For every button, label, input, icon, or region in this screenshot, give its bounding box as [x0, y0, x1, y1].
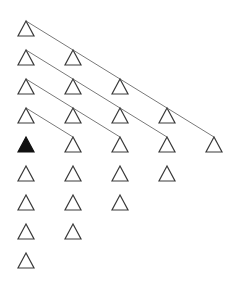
triangle-icon: [18, 195, 34, 210]
triangle-icon: [18, 224, 34, 239]
triangle-icon: [65, 224, 81, 239]
diagram-canvas: [0, 0, 237, 288]
triangle-icon: [65, 108, 81, 123]
triangle-icon: [65, 50, 81, 65]
connector-line: [26, 50, 167, 137]
triangle-icon: [112, 195, 128, 210]
triangle-icon: [65, 166, 81, 181]
triangle-icon: [18, 21, 34, 36]
triangle-icon: [65, 195, 81, 210]
triangle-icon: [112, 166, 128, 181]
triangle-grid-diagram: [0, 0, 237, 288]
triangle-icon: [112, 79, 128, 94]
triangle-icon: [18, 253, 34, 268]
filled-triangle-icon: [18, 137, 34, 152]
triangle-icon: [18, 166, 34, 181]
triangle-icon: [18, 50, 34, 65]
triangle-icon: [65, 137, 81, 152]
triangle-icon: [159, 166, 175, 181]
triangle-icon: [112, 108, 128, 123]
triangle-icon: [18, 79, 34, 94]
triangle-icon: [18, 108, 34, 123]
triangle-icon: [159, 137, 175, 152]
triangle-icon: [65, 79, 81, 94]
triangle-icon: [159, 108, 175, 123]
triangle-icon: [112, 137, 128, 152]
triangle-icon: [206, 137, 222, 152]
